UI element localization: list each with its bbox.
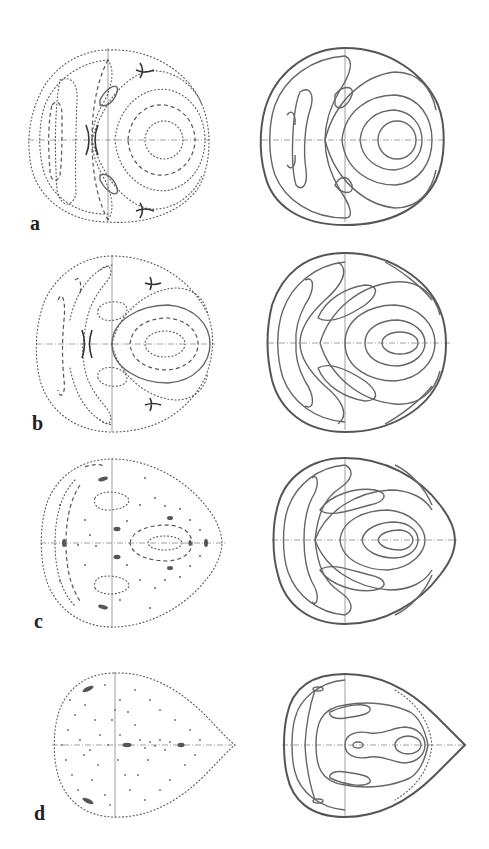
hyperbolic-point-icon <box>86 63 154 218</box>
panel-label-b: b <box>32 413 43 433</box>
panel-d-right <box>282 674 465 817</box>
panel-label-a: a <box>30 213 40 233</box>
panel-label-d: d <box>34 803 45 823</box>
figure: a b c d <box>0 0 489 849</box>
panel-d-left <box>52 672 235 818</box>
figure-graphics <box>0 0 489 849</box>
panel-a-right <box>261 48 445 225</box>
panel-a-left <box>28 48 210 222</box>
panel-b-right <box>268 252 453 432</box>
panel-label-c: c <box>34 611 43 631</box>
panel-c-right <box>272 458 458 625</box>
panel-b-left <box>36 255 215 432</box>
panel-c-left <box>40 458 225 628</box>
